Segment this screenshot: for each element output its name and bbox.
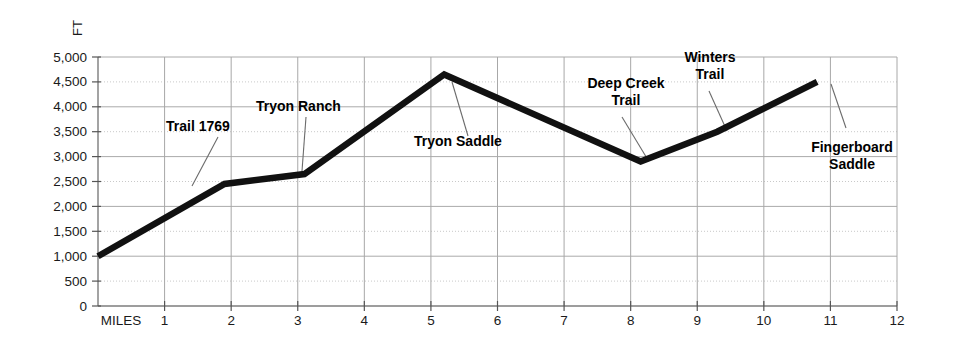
x-tick-label: 6 — [494, 313, 502, 328]
x-axis-title: MILES — [101, 313, 142, 328]
leader-line — [831, 84, 846, 128]
annotation-line: Trail — [612, 92, 641, 108]
x-axis-tick-labels: 123456789101112 — [161, 313, 905, 328]
y-tick-label: 1,500 — [53, 224, 87, 239]
leader-line — [192, 137, 218, 186]
x-tick-label: 4 — [361, 313, 369, 328]
annotation-line: Trail — [696, 66, 725, 82]
y-axis-title: FT — [70, 20, 85, 36]
annotation-label: Trail 1769 — [166, 118, 230, 134]
y-tick-label: 2,500 — [53, 174, 87, 189]
annotation-line: Winters — [684, 49, 735, 65]
x-tick-label: 8 — [627, 313, 635, 328]
x-tick-label: 11 — [823, 313, 837, 328]
y-axis-ticks — [92, 57, 101, 306]
y-tick-label: 3,500 — [53, 124, 87, 139]
leader-line — [302, 117, 306, 171]
x-tick-label: 12 — [889, 313, 904, 328]
y-tick-label: 2,000 — [53, 199, 87, 214]
annotation-line: Saddle — [829, 156, 875, 172]
chart-canvas: 05001,0001,5002,0002,5003,0003,5004,0004… — [0, 0, 955, 351]
annotation-line: Trail 1769 — [166, 118, 230, 134]
y-axis-tick-labels: 05001,0001,5002,0002,5003,0003,5004,0004… — [53, 50, 87, 314]
annotation-label: Tryon Ranch — [256, 98, 341, 114]
x-tick-label: 2 — [227, 313, 235, 328]
x-tick-label: 9 — [693, 313, 701, 328]
y-tick-label: 4,500 — [53, 74, 87, 89]
annotation-line: Fingerboard — [811, 139, 893, 155]
annotation-line: Tryon Ranch — [256, 98, 341, 114]
annotation-line: Tryon Saddle — [414, 133, 502, 149]
leader-line — [452, 82, 468, 136]
x-tick-label: 5 — [427, 313, 435, 328]
y-tick-label: 500 — [64, 274, 87, 289]
y-tick-label: 3,000 — [53, 149, 87, 164]
annotation-label: Deep CreekTrail — [587, 75, 664, 108]
x-tick-label: 10 — [756, 313, 771, 328]
annotation-line: Deep Creek — [587, 75, 664, 91]
y-tick-label: 4,000 — [53, 99, 87, 114]
y-tick-label: 5,000 — [53, 50, 87, 65]
annotation-label: Tryon Saddle — [414, 133, 502, 149]
x-tick-label: 1 — [161, 313, 169, 328]
y-tick-label: 0 — [79, 299, 87, 314]
annotation-label: FingerboardSaddle — [811, 139, 893, 172]
x-tick-label: 7 — [560, 313, 568, 328]
annotation-label: WintersTrail — [684, 49, 735, 82]
x-tick-label: 3 — [294, 313, 302, 328]
y-tick-label: 1,000 — [53, 249, 87, 264]
elevation-profile-chart: 05001,0001,5002,0002,5003,0003,5004,0004… — [0, 0, 955, 351]
